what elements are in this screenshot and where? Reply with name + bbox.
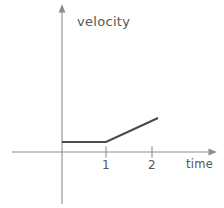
- x-tick-label-1: 1: [102, 159, 110, 171]
- velocity-time-graph: velocity time 1 2: [0, 0, 224, 208]
- x-axis-arrow-icon: [209, 149, 218, 156]
- x-axis: [12, 149, 217, 156]
- y-axis-label: velocity: [77, 15, 130, 28]
- graph-canvas: [0, 0, 224, 208]
- x-axis-label: time: [186, 159, 213, 171]
- x-tick-label-2: 2: [148, 159, 156, 171]
- velocity-data-line: [62, 118, 158, 142]
- y-axis: [59, 4, 66, 204]
- y-axis-arrow-icon: [59, 4, 66, 13]
